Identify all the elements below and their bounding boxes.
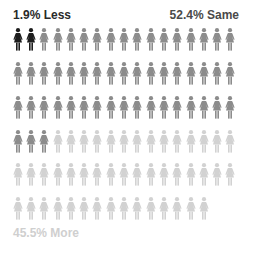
woman-icon-more [131,163,144,187]
woman-icon-same [171,96,184,120]
woman-icon-more [197,130,210,154]
woman-icon-more [131,197,144,221]
woman-icon-same [91,62,104,86]
woman-icon-more [64,130,77,154]
woman-icon-more [11,197,24,221]
more-label: 45.5% More [13,226,79,240]
woman-icon-same [64,96,77,120]
woman-icon-same [64,62,77,86]
woman-icon-same [104,96,117,120]
woman-icon-more [224,163,237,187]
woman-icon-same [131,96,144,120]
pictogram-row [11,130,246,163]
pictogram-grid [11,28,246,231]
woman-icon-more [131,130,144,154]
woman-icon-same [131,62,144,86]
woman-icon-same [11,130,24,154]
woman-icon-same [77,96,90,120]
woman-icon-same [157,96,170,120]
woman-icon-same [197,96,210,120]
woman-icon-same [144,28,157,52]
same-label: 52.4% Same [170,8,239,22]
woman-icon-more [38,163,51,187]
pictogram-row [11,163,246,197]
woman-icon-more [184,130,197,154]
woman-icon-more [91,197,104,221]
woman-icon-same [117,28,130,52]
woman-icon-same [38,96,51,120]
woman-icon-same [24,96,37,120]
woman-icon-same [91,96,104,120]
woman-icon-less [24,28,37,52]
woman-icon-same [38,130,51,154]
woman-icon-same [38,62,51,86]
woman-icon-same [131,28,144,52]
woman-icon-more [184,163,197,187]
woman-icon-more [51,197,64,221]
woman-icon-same [224,62,237,86]
woman-icon-same [210,28,223,52]
woman-icon-more [24,197,37,221]
woman-icon-more [11,163,24,187]
woman-icon-same [224,96,237,120]
woman-icon-same [157,62,170,86]
woman-icon-same [171,28,184,52]
woman-icon-same [64,28,77,52]
woman-icon-same [184,28,197,52]
woman-icon-more [104,130,117,154]
woman-icon-more [51,130,64,154]
woman-icon-more [91,130,104,154]
woman-icon-same [77,28,90,52]
woman-icon-same [184,96,197,120]
woman-icon-more [144,197,157,221]
woman-icon-same [91,28,104,52]
woman-icon-more [171,163,184,187]
woman-icon-same [184,62,197,86]
woman-icon-more [77,130,90,154]
woman-icon-more [197,163,210,187]
woman-icon-same [117,96,130,120]
woman-icon-same [197,28,210,52]
woman-icon-more [144,130,157,154]
woman-icon-more [117,130,130,154]
woman-icon-more [157,130,170,154]
woman-icon-same [157,28,170,52]
pictogram-row [11,96,246,130]
woman-icon-more [38,197,51,221]
woman-icon-same [104,62,117,86]
woman-icon-more [171,197,184,221]
less-label: 1.9% Less [13,8,71,22]
woman-icon-same [224,28,237,52]
woman-icon-more [144,163,157,187]
woman-icon-more [157,197,170,221]
woman-icon-more [210,163,223,187]
woman-icon-more [104,197,117,221]
woman-icon-same [38,28,51,52]
woman-icon-more [197,197,210,221]
woman-icon-same [11,96,24,120]
woman-icon-same [210,96,223,120]
woman-icon-same [197,62,210,86]
woman-icon-same [24,62,37,86]
pictogram-row [11,62,246,96]
woman-icon-more [64,197,77,221]
woman-icon-same [210,62,223,86]
woman-icon-same [117,62,130,86]
woman-icon-more [157,163,170,187]
woman-icon-more [91,163,104,187]
woman-icon-more [184,197,197,221]
pictogram-row [11,28,246,62]
woman-icon-same [77,62,90,86]
woman-icon-same [171,62,184,86]
woman-icon-same [51,28,64,52]
woman-icon-more [51,163,64,187]
woman-icon-more [64,163,77,187]
woman-icon-less [11,28,24,52]
woman-icon-more [77,163,90,187]
woman-icon-same [144,62,157,86]
woman-icon-more [117,197,130,221]
woman-icon-same [104,28,117,52]
woman-icon-same [144,96,157,120]
woman-icon-more [117,163,130,187]
woman-icon-more [24,163,37,187]
